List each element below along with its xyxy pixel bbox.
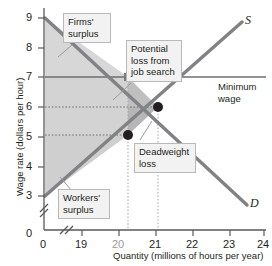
demand-curve-label: D bbox=[250, 196, 259, 211]
y-tick-3: 3 bbox=[26, 189, 32, 201]
region-transfer-block bbox=[45, 77, 128, 135]
y-axis-ticks bbox=[38, 18, 44, 196]
x-tick-23: 23 bbox=[223, 238, 235, 250]
y-tick-5: 5 bbox=[26, 130, 32, 142]
marker-equilibrium bbox=[153, 102, 163, 112]
callout-deadweight-loss: Deadweight loss bbox=[134, 143, 196, 173]
x-tick-21: 21 bbox=[149, 238, 161, 250]
x-tick-20: 20 bbox=[112, 238, 124, 250]
minimum-wage-label: Minimum wage bbox=[218, 81, 257, 104]
callout-firms-surplus: Firms' surplus bbox=[63, 13, 111, 43]
callout-potential-loss-from-job-search: Potential loss from job search bbox=[126, 40, 182, 82]
y-axis-title: Wage rate (dollars per hour) bbox=[14, 78, 25, 196]
region-potential-loss-from-job-search bbox=[128, 77, 158, 107]
x-tick-22: 22 bbox=[186, 238, 198, 250]
supply-curve-label: S bbox=[245, 13, 251, 28]
x-tick-0: 0 bbox=[40, 238, 46, 250]
callout-workers-surplus: Workers' surplus bbox=[58, 189, 110, 219]
y-tick-6: 6 bbox=[26, 100, 32, 112]
y-tick-9: 9 bbox=[26, 11, 32, 23]
supply-demand-minimum-wage-chart: 9 8 7 6 5 4 3 0 0 19 20 21 22 23 24 Wage… bbox=[0, 0, 272, 266]
y-tick-8: 8 bbox=[26, 41, 32, 53]
x-tick-19: 19 bbox=[75, 238, 87, 250]
y-tick-0: 0 bbox=[26, 227, 32, 239]
x-axis-title: Quantity (millions of hours per year) bbox=[113, 250, 263, 261]
x-axis-ticks bbox=[82, 230, 264, 236]
y-tick-4: 4 bbox=[26, 160, 32, 172]
marker-supply-at-q20 bbox=[123, 130, 133, 140]
y-tick-7: 7 bbox=[26, 70, 32, 82]
x-tick-24: 24 bbox=[257, 238, 269, 250]
